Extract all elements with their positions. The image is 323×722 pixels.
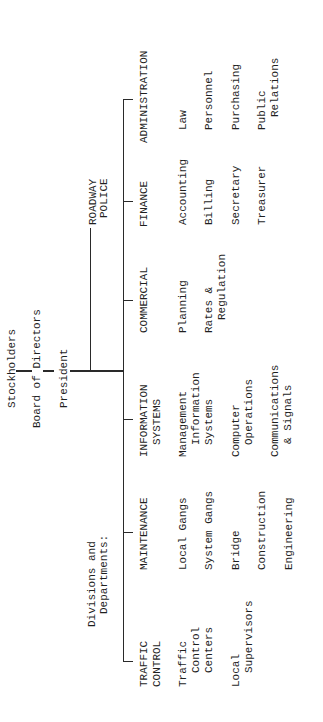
unit-secretary: Secretary: [230, 166, 243, 227]
unit-engineering: Engineering: [283, 497, 296, 570]
unit-line: Construction: [256, 491, 269, 570]
unit-line: Bridge: [230, 530, 243, 570]
unit-line: Systems: [203, 372, 216, 457]
department-header: TRAFFIC CONTROL: [138, 641, 163, 687]
department-commercial: COMMERCIAL Planning Rates & Regulation: [0, 213, 323, 333]
unit-management-information-systems: Management Information Systems: [177, 372, 217, 457]
unit-line: Engineering: [283, 497, 296, 570]
header-line: INFORMATION: [138, 384, 151, 457]
unit-line: Computer: [230, 379, 243, 457]
unit-purchasing: Purchasing: [230, 64, 243, 143]
unit-line: Control: [190, 627, 203, 687]
unit-local-supervisors: Local Supervisors: [230, 600, 256, 687]
unit-line: System Gangs: [203, 491, 216, 570]
department-header: COMMERCIAL: [138, 267, 151, 333]
unit-rates-regulation: Rates & Regulation: [203, 254, 229, 333]
header-line: CONTROL: [151, 641, 164, 687]
unit-billing: Billing: [203, 179, 216, 227]
unit-system-gangs: System Gangs: [203, 491, 216, 570]
unit-communications-signals: Communications & Signals: [269, 365, 295, 457]
department-administration: ADMINISTRATION Law Personnel Purchasing …: [0, 23, 323, 143]
unit-line: Personnel: [203, 71, 216, 143]
department-maintenance: MAINTENANCE Local Gangs System Gangs Bri…: [0, 450, 323, 570]
header-line: COMMERCIAL: [138, 267, 151, 333]
unit-line: Public: [256, 58, 269, 143]
unit-line: & Signals: [282, 365, 295, 457]
unit-planning: Planning: [177, 280, 190, 333]
unit-line: Traffic: [177, 627, 190, 687]
unit-line: Rates &: [203, 254, 216, 333]
unit-construction: Construction: [256, 491, 269, 570]
department-header: FINANCE: [138, 181, 151, 227]
unit-bridge: Bridge: [230, 530, 243, 570]
unit-line: Secretary: [230, 166, 243, 225]
unit-local-gangs: Local Gangs: [177, 497, 190, 570]
unit-computer-operations: Computer Operations: [230, 379, 256, 457]
header-line: SYSTEMS: [151, 384, 164, 457]
unit-line: Management: [177, 372, 190, 457]
unit-public-relations: Public Relations: [256, 58, 282, 143]
unit-line: Local: [230, 600, 243, 687]
department-header: MAINTENANCE: [138, 497, 151, 570]
unit-line: Billing: [203, 179, 216, 225]
header-line: FINANCE: [138, 181, 151, 227]
unit-line: Purchasing: [230, 64, 243, 143]
header-line: ADMINISTRATION: [138, 51, 151, 143]
unit-line: Centers: [203, 627, 216, 687]
unit-line: Operations: [243, 379, 256, 457]
department-header: ADMINISTRATION: [138, 51, 151, 143]
unit-line: Information: [190, 372, 203, 457]
unit-law: Law: [177, 110, 190, 143]
unit-line: Supervisors: [243, 600, 256, 687]
header-line: TRAFFIC: [138, 641, 151, 687]
unit-accounting: Accounting: [177, 159, 190, 227]
header-line: MAINTENANCE: [138, 497, 151, 570]
unit-line: Planning: [177, 280, 190, 333]
department-header: INFORMATION SYSTEMS: [138, 384, 163, 457]
unit-traffic-control-centers: Traffic Control Centers: [177, 627, 217, 687]
unit-line: Regulation: [216, 254, 229, 333]
unit-line: Local Gangs: [177, 497, 190, 570]
unit-line: Law: [177, 110, 190, 143]
unit-line: Accounting: [177, 159, 190, 225]
unit-line: Treasurer: [256, 166, 269, 225]
unit-treasurer: Treasurer: [256, 166, 269, 227]
department-traffic-control: TRAFFIC CONTROL Traffic Control Centers …: [0, 567, 323, 687]
unit-line: Relations: [269, 58, 282, 143]
unit-personnel: Personnel: [203, 71, 216, 143]
department-information-systems: INFORMATION SYSTEMS Management Informati…: [0, 337, 323, 457]
org-chart: Stockholders Board of Directors Presiden…: [0, 0, 323, 722]
unit-line: Communications: [269, 365, 282, 457]
